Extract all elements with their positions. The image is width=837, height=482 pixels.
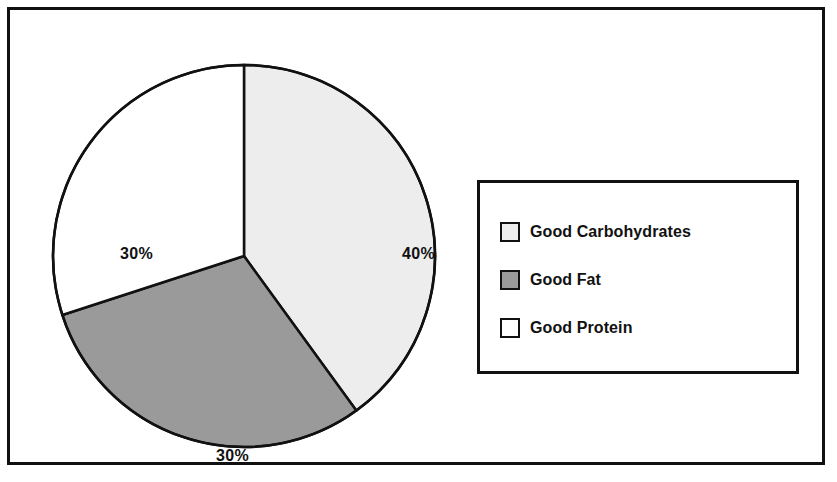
legend-label-good-protein: Good Protein [530, 319, 633, 337]
legend-item-good-protein[interactable]: Good Protein [500, 315, 780, 341]
figure-root: 40% 30% 30% Good Carbohydrates Good Fat … [0, 0, 837, 482]
legend-item-good-fat[interactable]: Good Fat [500, 267, 780, 293]
pie-label-good-carbohydrates: 40% [402, 245, 435, 263]
legend-item-good-carbohydrates[interactable]: Good Carbohydrates [500, 219, 780, 245]
pie-chart: 40% 30% 30% [50, 60, 440, 460]
pie-slice-group [53, 65, 435, 447]
pie-label-good-fat: 30% [216, 447, 249, 465]
legend-swatch-good-fat [500, 270, 520, 290]
legend-label-good-carbohydrates: Good Carbohydrates [530, 223, 691, 241]
figure-border: 40% 30% 30% Good Carbohydrates Good Fat … [7, 7, 825, 465]
legend-item-list: Good Carbohydrates Good Fat Good Protein [500, 219, 780, 341]
legend-label-good-fat: Good Fat [530, 271, 601, 289]
legend-swatch-good-protein [500, 318, 520, 338]
pie-chart-svg [50, 60, 440, 460]
pie-label-good-protein: 30% [120, 245, 153, 263]
legend: Good Carbohydrates Good Fat Good Protein [477, 180, 799, 374]
legend-swatch-good-carbohydrates [500, 222, 520, 242]
